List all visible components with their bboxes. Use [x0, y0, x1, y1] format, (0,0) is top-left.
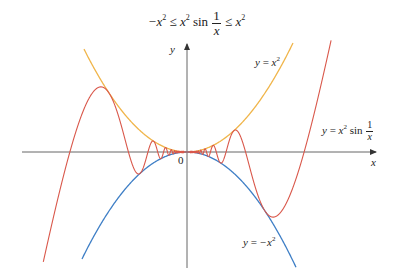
label-exp: 2 [272, 235, 276, 243]
label-neg-x-squared: y = −x2 [243, 236, 275, 248]
origin-label: 0 [178, 155, 184, 166]
label-exp: 2 [277, 55, 281, 63]
label-y: y [322, 124, 327, 136]
label-x-squared-sin: y = x2 sin 1x [322, 120, 374, 142]
label-eq: = [251, 236, 257, 248]
label-neg-x: −x [260, 236, 272, 248]
label-sin: sin [350, 124, 363, 136]
y-axis-label: y [170, 44, 175, 55]
label-eq: = [330, 124, 336, 136]
label-y: y [243, 236, 248, 248]
denominator: x [366, 132, 373, 143]
x-axis-label: x [371, 157, 376, 168]
label-x-squared: y = x2 [255, 56, 280, 68]
label-y: y [255, 56, 260, 68]
squeeze-theorem-figure: −x2 ≤ x2 sin 1x ≤ x2 y x 0 y = x2 y = x2… [0, 0, 393, 271]
label-fraction: 1x [366, 120, 373, 142]
numerator: 1 [366, 120, 373, 132]
label-exp: 2 [344, 123, 348, 131]
label-eq: = [263, 56, 269, 68]
